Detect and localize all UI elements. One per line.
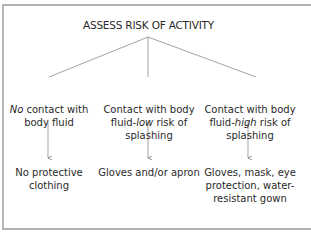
branch-line-right [148, 37, 256, 77]
condition-high-risk: Contact with body fluid-high risk of spl… [198, 103, 302, 142]
branch-line-left [49, 37, 148, 77]
outcome-no-protective-clothing: No protective clothing [8, 166, 90, 192]
condition-no-contact: No contact with body fluid [8, 103, 90, 129]
condition-low-risk: Contact with body fluid-low risk of spla… [98, 103, 200, 142]
outcome-gloves-apron: Gloves and/or apron [98, 166, 200, 179]
outcome-full-protection: Gloves, mask, eye protection, water-resi… [198, 166, 302, 205]
